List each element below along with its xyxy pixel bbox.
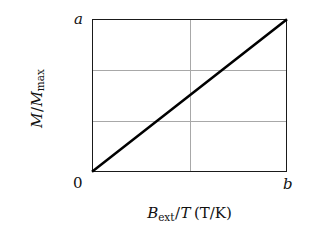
y-axis-title-denominator: M [28,91,46,106]
x-axis-title: Bext/T(T/K) [92,204,287,223]
x-axis-title-subscript: ext [158,211,174,223]
figure-container: a 0 b M/Mmax Bext/T(T/K) [0,0,312,238]
y-axis-title-denominator-subscript: max [34,69,46,91]
y-axis-title-divider: / [28,107,46,113]
origin-tick-label: 0 [73,176,83,191]
x-axis-title-denominator: T [181,204,191,222]
x-axis-max-tick-label: b [283,177,293,192]
y-axis-max-tick-label: a [74,12,83,27]
y-axis-title: M/Mmax [28,33,47,163]
data-line-0 [93,20,286,171]
x-axis-title-symbol: B [147,204,158,222]
plot-area [92,19,287,172]
data-line-svg [93,20,286,171]
x-axis-title-units: (T/K) [194,204,232,222]
y-axis-title-numerator: M [28,113,46,128]
